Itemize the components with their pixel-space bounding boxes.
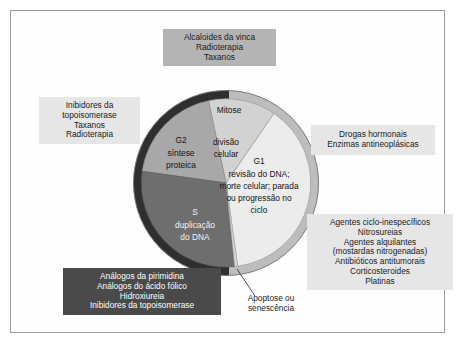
vinca-line-3: Taxanos <box>168 53 271 63</box>
label-g1-s1: revisão do DNA; <box>229 169 290 179</box>
label-mitose: Mitose <box>217 105 242 115</box>
label-g2-s2: proteica <box>166 160 196 170</box>
label-g2: G2 <box>175 135 187 145</box>
antimetab-line-4: Inibidores da topoisomerase <box>67 301 217 311</box>
label-g1: G1 <box>253 156 265 166</box>
label-g2-s1: síntese <box>167 148 194 158</box>
annotation-antimetabolites: Análogos da pirimidina Análogos do ácido… <box>63 268 221 315</box>
label-s-s2: do DNA <box>180 232 210 242</box>
diagram-frame: Mitose divisão celular G1 revisão do DNA… <box>10 10 445 333</box>
label-s: S <box>192 207 198 217</box>
cell-cycle-wheel: Mitose divisão celular G1 revisão do DNA… <box>133 83 325 287</box>
apoptose-line-2: senescência <box>248 303 294 313</box>
label-g1-s3: ou progressão no <box>226 193 292 203</box>
annotation-cycle-nonspecific-agents: Agentes ciclo-inespecíficos Nitrosureias… <box>307 214 453 290</box>
annotation-apoptosis: Apoptose ou senescência <box>229 293 313 314</box>
label-s-s1: duplicação <box>175 220 215 230</box>
label-g1-s4: ciclo <box>251 205 268 215</box>
hormonal-line-2: Enzimas antineoplásicas <box>315 140 431 150</box>
annotation-topoisomerase-left: Inibidores da topoisomerase Taxanos Radi… <box>39 97 140 144</box>
annotation-vinca-alkaloids: Alcaloides da vinca Radioterapia Taxanos <box>163 29 276 66</box>
apoptose-line-1: Apoptose ou <box>248 293 295 303</box>
topo-left-line-4: Radioterapia <box>43 130 136 140</box>
nonspecific-line-7: Platinas <box>311 277 449 287</box>
label-g1-s2: morte celular; parada <box>219 181 298 191</box>
label-mitose-s2: celular <box>214 149 239 159</box>
annotation-hormonal-drugs: Drogas hormonais Enzimas antineoplásicas <box>311 125 435 155</box>
label-mitose-s1: divisão <box>213 137 239 147</box>
cell-cycle-svg: Mitose divisão celular G1 revisão do DNA… <box>133 83 325 287</box>
